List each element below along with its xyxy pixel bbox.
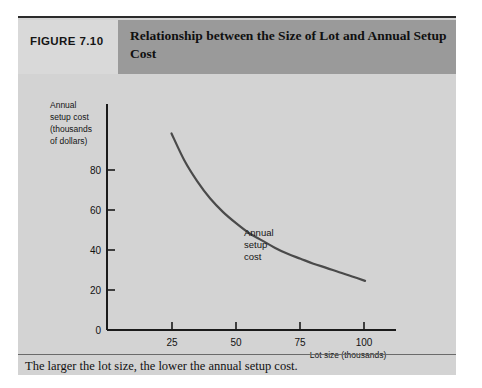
y-axis-title-line-4: of dollars) <box>50 136 87 146</box>
chart-area: 80 60 40 20 0 Annual setup cost (thousan… <box>18 74 456 352</box>
y-tick-label-0: 0 <box>95 325 101 336</box>
x-tick-label-50: 50 <box>230 337 242 348</box>
caption-divider <box>18 354 456 355</box>
y-axis-tick-labels: 80 60 40 20 0 <box>90 165 102 336</box>
y-tick-label-80: 80 <box>90 165 102 176</box>
y-axis-title-line-3: (thousands <box>50 124 92 134</box>
figure-header: FIGURE 7.10 Relationship between the Siz… <box>18 20 456 74</box>
x-tick-label-100: 100 <box>356 337 373 348</box>
y-tick-label-20: 20 <box>90 285 102 296</box>
curve-annotation-line-1: Annual <box>244 227 274 238</box>
figure-panel: FIGURE 7.10 Relationship between the Siz… <box>18 16 456 375</box>
y-axis-ticks <box>107 170 115 290</box>
curve-annotation-line-2: setup <box>244 239 267 250</box>
figure-title-band: Relationship between the Size of Lot and… <box>118 20 456 74</box>
figure-caption: The larger the lot size, the lower the a… <box>25 359 449 374</box>
x-tick-label-75: 75 <box>294 337 306 348</box>
y-tick-label-40: 40 <box>90 245 102 256</box>
cost-curve <box>172 133 366 280</box>
y-axis-title-line-1: Annual <box>50 100 77 110</box>
x-tick-label-25: 25 <box>166 337 178 348</box>
x-axis-ticks <box>172 322 364 330</box>
y-tick-label-60: 60 <box>90 205 102 216</box>
figure-number-label: FIGURE 7.10 <box>30 35 103 47</box>
figure-number-cell: FIGURE 7.10 <box>18 20 118 74</box>
y-axis-title: Annual setup cost (thousands of dollars) <box>50 100 92 146</box>
y-axis-title-line-2: setup cost <box>50 112 89 122</box>
setup-cost-chart: 80 60 40 20 0 Annual setup cost (thousan… <box>18 74 456 352</box>
figure-title: Relationship between the Size of Lot and… <box>130 27 448 63</box>
x-axis-tick-labels: 25 50 75 100 <box>166 337 372 348</box>
curve-annotation-line-3: cost <box>244 251 262 262</box>
